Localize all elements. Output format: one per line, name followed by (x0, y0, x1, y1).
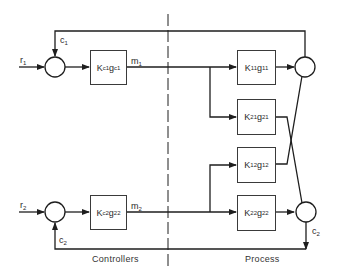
transfer-g-sub: 12 (262, 162, 269, 168)
process-section-label: Process (245, 254, 280, 264)
summing-junction-c1 (295, 57, 315, 77)
m1-branch-line (210, 67, 236, 117)
signal-m2-label: m2 (131, 202, 142, 212)
gain-k-sub: 12 (250, 162, 257, 168)
signal-sub: 1 (23, 60, 26, 66)
controller-2-block: Kc2g22 (90, 195, 127, 230)
transfer-g-sub: c1 (114, 65, 120, 71)
y12-cross-line (276, 76, 302, 164)
signal-sub: 2 (23, 205, 26, 211)
signal-c2-feedback-label: c2 (59, 236, 67, 246)
process-22-block: K22g22 (237, 195, 276, 231)
controller-1-block: Kc1gc1 (90, 50, 127, 85)
transfer-g-sub: 22 (114, 210, 121, 216)
diagram-canvas (0, 0, 337, 277)
transfer-g-sub: 22 (262, 210, 269, 216)
transfer-g-sub: 21 (262, 114, 269, 120)
signal-sub: 1 (65, 40, 68, 46)
signal-sub: 1 (139, 61, 142, 67)
signal-base: m (131, 56, 139, 66)
signal-r1-label: r1 (20, 56, 26, 66)
process-11-block: K11g11 (237, 50, 276, 85)
signal-m1-label: m1 (131, 57, 142, 67)
signal-sub: 2 (317, 231, 320, 237)
controllers-section-label: Controllers (92, 254, 139, 264)
signal-c1-label: c1 (60, 36, 68, 46)
gain-k-sub: 21 (250, 114, 257, 120)
signal-sub: 2 (139, 206, 142, 212)
summing-junction-1 (45, 57, 65, 77)
summing-junction-c2 (296, 202, 316, 222)
signal-r2-label: r2 (20, 201, 26, 211)
summing-junction-2 (45, 202, 65, 222)
signal-sub: 2 (64, 240, 67, 246)
process-21-block: K21g21 (237, 99, 276, 135)
process-12-block: K12g12 (237, 147, 276, 183)
transfer-g-sub: 11 (262, 65, 268, 71)
signal-base: m (131, 201, 139, 211)
y21-cross-line (276, 117, 302, 203)
gain-k-sub: 22 (250, 210, 257, 216)
m2-branch-line (210, 165, 236, 212)
signal-c2-output-label: c2 (312, 227, 320, 237)
